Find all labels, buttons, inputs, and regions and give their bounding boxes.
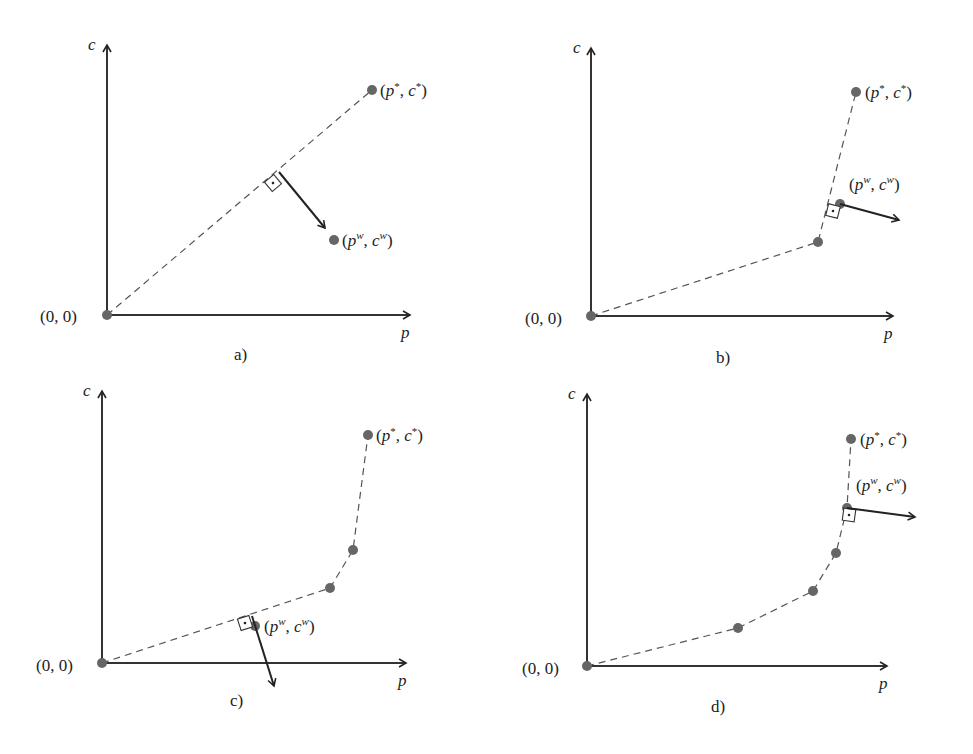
target-point xyxy=(367,85,377,95)
panel-caption: c) xyxy=(230,691,243,710)
origin-point xyxy=(102,310,112,320)
intermediate-point xyxy=(325,583,335,593)
target-point xyxy=(846,434,856,444)
weight-label: (pw, cw) xyxy=(856,474,907,495)
weight-point xyxy=(329,235,339,245)
weight-label: (pw, cw) xyxy=(342,229,393,250)
panel-d: c p (0, 0) (p*, c*) (pw, cw) d) xyxy=(522,384,915,716)
dashed-path xyxy=(587,439,851,666)
target-label: (p*, c*) xyxy=(376,425,423,445)
panel-caption: d) xyxy=(711,697,725,716)
target-label: (p*, c*) xyxy=(380,80,427,100)
origin-label: (0, 0) xyxy=(525,309,562,328)
panel-caption: b) xyxy=(716,348,730,367)
origin-label: (0, 0) xyxy=(36,656,73,675)
c-axis-label: c xyxy=(88,35,96,54)
weight-label: (pw, cw) xyxy=(264,615,315,636)
intermediate-point xyxy=(348,545,358,555)
panel-c: c p (0, 0) (p*, c*) (pw, cw) c) xyxy=(36,381,423,710)
c-axis-label: c xyxy=(83,381,91,400)
origin-point xyxy=(586,311,596,321)
right-angle-marker xyxy=(842,508,856,522)
normal-arrow xyxy=(840,204,899,220)
p-axis-label: p xyxy=(400,323,410,342)
target-point xyxy=(363,430,373,440)
right-angle-marker xyxy=(826,204,841,219)
figure-canvas: c p (0, 0) (p*, c*) (pw, cw) a) c p (0, … xyxy=(0,0,973,754)
intermediate-point xyxy=(808,586,818,596)
panel-b: c p (0, 0) (p*, c*) (pw, cw) b) xyxy=(525,38,912,367)
normal-arrow xyxy=(847,508,915,517)
dashed-path xyxy=(591,92,856,316)
dashed-path xyxy=(102,435,368,663)
intermediate-point xyxy=(831,548,841,558)
origin-point xyxy=(582,661,592,671)
target-label: (p*, c*) xyxy=(865,82,912,102)
c-axis-label: c xyxy=(573,38,581,57)
p-axis-label: p xyxy=(878,674,888,693)
dashed-path xyxy=(107,90,372,315)
origin-label: (0, 0) xyxy=(40,307,77,326)
p-axis-label: p xyxy=(883,324,893,343)
intermediate-point xyxy=(733,623,743,633)
target-point xyxy=(851,87,861,97)
target-label: (p*, c*) xyxy=(860,429,907,449)
normal-arrow xyxy=(279,172,325,228)
c-axis-label: c xyxy=(568,384,576,403)
panel-a: c p (0, 0) (p*, c*) (pw, cw) a) xyxy=(40,35,427,364)
panel-caption: a) xyxy=(234,345,247,364)
origin-label: (0, 0) xyxy=(522,659,559,678)
origin-point xyxy=(97,658,107,668)
intermediate-point xyxy=(813,237,823,247)
p-axis-label: p xyxy=(397,671,407,690)
right-angle-marker xyxy=(265,175,282,192)
weight-label: (pw, cw) xyxy=(849,173,900,194)
